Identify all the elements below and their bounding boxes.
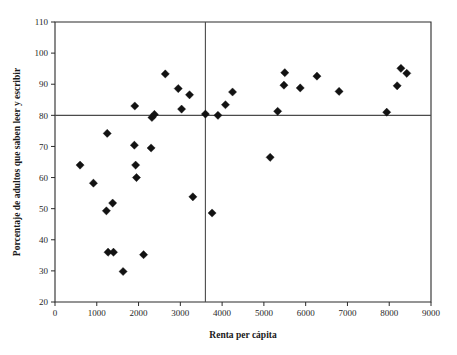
- x-tick-label: 6000: [297, 308, 316, 318]
- scatter-plot-figure: 2030405060708090100110 01000200030004000…: [0, 0, 457, 355]
- x-tick-label: 5000: [255, 308, 274, 318]
- x-tick-label: 1000: [88, 308, 107, 318]
- x-tick-label: 9000: [422, 308, 441, 318]
- y-axis-title: Porcentaje de adultos que saben leer y e…: [12, 67, 22, 256]
- y-tick-label: 100: [35, 48, 49, 58]
- x-tick-label: 8000: [380, 308, 399, 318]
- y-tick-label: 50: [39, 204, 49, 214]
- x-tick-label: 3000: [171, 308, 190, 318]
- y-tick-label: 20: [39, 297, 49, 307]
- x-axis-title: Renta per cápita: [209, 330, 277, 340]
- x-tick-label: 2000: [130, 308, 149, 318]
- y-tick-label: 90: [39, 79, 49, 89]
- y-tick-label: 40: [39, 235, 49, 245]
- x-tick-label: 4000: [213, 308, 232, 318]
- y-tick-label: 80: [39, 111, 49, 121]
- y-tick-label: 60: [39, 173, 49, 183]
- chart-canvas: 2030405060708090100110 01000200030004000…: [0, 0, 457, 355]
- y-tick-label: 70: [39, 142, 49, 152]
- x-tick-label: 7000: [338, 308, 357, 318]
- x-tick-label: 0: [53, 308, 58, 318]
- y-tick-label: 110: [35, 17, 49, 27]
- y-tick-label: 30: [39, 266, 49, 276]
